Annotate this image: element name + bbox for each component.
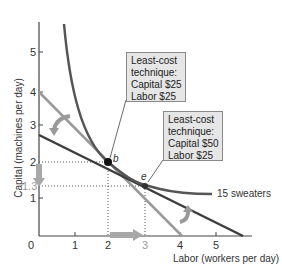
rotate-arrow-top-icon	[54, 116, 70, 130]
y-tick-label-2: 2	[30, 156, 36, 168]
point-e-label: e	[141, 171, 147, 182]
box-b-line1: Least-cost	[131, 55, 181, 67]
annotation-box-e: Least-cost technique: Capital $50 Labor …	[163, 111, 223, 161]
box-b-line2: technique:	[131, 67, 181, 79]
annotation-box-b: Least-cost technique: Capital $25 Labor …	[126, 52, 186, 102]
point-b-label: b	[113, 153, 119, 164]
x-tick-label-4: 4	[177, 239, 183, 251]
box-b-line3: Capital $25	[131, 79, 181, 91]
x-tick-label-2: 2	[105, 239, 111, 251]
x-tick-label-5: 5	[213, 239, 219, 251]
y-tick-label-5: 5	[30, 46, 36, 58]
rotate-arrowhead-top-icon	[49, 128, 59, 136]
leader-line-e	[148, 160, 163, 182]
chart-svg: 5 4 3 2 1.3 1 0 1 2 3 4 5 Labor (workers…	[0, 0, 282, 272]
y-tick-label-1: 1	[30, 192, 36, 204]
x-shift-arrow-icon	[110, 229, 143, 241]
box-e-line1: Least-cost	[168, 114, 218, 126]
leader-line-b	[110, 100, 126, 158]
isoquant-label: 15 sweaters	[217, 188, 271, 199]
y-tick-label-4: 4	[30, 86, 36, 98]
y-tick-label-3: 3	[30, 119, 36, 131]
y-tick-label-1-3: 1.3	[22, 180, 37, 192]
x-tick-label-1: 1	[72, 239, 78, 251]
x-axis-title: Labor (workers per day)	[173, 253, 279, 264]
y-axis-title: Capital (machines per day)	[13, 78, 24, 198]
box-e-line3: Capital $50	[168, 138, 218, 150]
point-e	[142, 183, 148, 189]
x-tick-label-3: 3	[142, 239, 148, 251]
isoquant-curve	[64, 24, 212, 194]
box-b-line4: Labor $25	[131, 91, 181, 103]
box-e-line4: Labor $25	[168, 150, 218, 162]
box-e-line2: technique:	[168, 126, 218, 138]
point-b	[104, 158, 112, 166]
origin-label: 0	[28, 239, 34, 251]
rotate-arrow-bottom-icon	[180, 212, 188, 222]
